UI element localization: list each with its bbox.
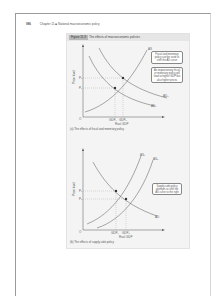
chapter-title: Chapter 11 ■ National macroeconomic poli… xyxy=(40,22,100,26)
page-number: 986 xyxy=(26,22,31,26)
figure: Figure 11.3 The effects of macroeconomic… xyxy=(66,33,190,249)
svg-text:Price level: Price level xyxy=(72,182,76,196)
panel-b-caption: (b) The effects of supply-side policy xyxy=(70,240,114,244)
svg-text:AS₂: AS₂ xyxy=(153,157,159,161)
svg-text:GDP₁: GDP₁ xyxy=(111,231,119,235)
svg-text:O: O xyxy=(79,117,82,121)
svg-text:P₂: P₂ xyxy=(79,76,83,80)
svg-text:AS₁: AS₁ xyxy=(140,153,145,157)
panel-a-caption: (a) The effects of fiscal and monetary p… xyxy=(70,127,124,131)
callout-shift-ad: Fiscal and monetary policy can be used t… xyxy=(151,51,183,64)
svg-text:AD: AD xyxy=(155,215,160,219)
svg-text:O: O xyxy=(79,230,82,234)
svg-text:Real GDP: Real GDP xyxy=(119,235,133,239)
svg-text:AD₂: AD₂ xyxy=(163,94,169,98)
callout-supply-side: Supply-side policy attempts to shift the… xyxy=(152,183,182,195)
svg-text:P₂: P₂ xyxy=(79,197,83,201)
running-head: 986 Chapter 11 ■ National macroeconomic … xyxy=(26,22,99,26)
svg-text:Real GDP: Real GDP xyxy=(115,122,129,126)
svg-text:AD₁: AD₁ xyxy=(151,104,156,108)
svg-text:P₁: P₁ xyxy=(79,86,82,90)
svg-text:Price level: Price level xyxy=(72,70,76,84)
svg-text:P₁: P₁ xyxy=(79,189,82,193)
callout-expansionary: An expansionary fiscal or monetary polic… xyxy=(151,67,183,83)
